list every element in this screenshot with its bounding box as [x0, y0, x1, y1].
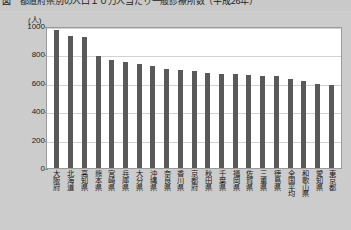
y-axis-tick-label: 400: [1, 107, 45, 116]
x-axis-label-cell: 和歌山県: [298, 170, 312, 228]
bar-cell: [215, 28, 229, 168]
x-axis-label-cell: 香川県: [173, 170, 187, 228]
x-axis-tick-label: 秋田県: [204, 170, 212, 228]
bar: [192, 71, 197, 168]
bar-cell: [270, 28, 284, 168]
x-axis-tick-label: 全国平均: [287, 170, 295, 228]
bar-cell: [119, 28, 133, 168]
x-axis-label-cell: 三重県: [256, 170, 270, 228]
x-axis-label-cell: 大分県: [132, 170, 146, 228]
x-axis-tick-label: 北海道: [66, 170, 74, 228]
bar: [54, 30, 59, 168]
bar-cell: [283, 28, 297, 168]
x-axis-labels: 大阪府北海道高知県熊本県宮崎県兵庫県大分県沖縄県奈良県香川県京都府秋田県千葉県福…: [49, 170, 339, 228]
x-axis-label-cell: 東京都: [325, 170, 339, 228]
bar: [96, 56, 101, 168]
chart-title: 図 都道府県別の人口１０万人当たり一般診療所数（平成26年）: [2, 0, 258, 7]
bar-cell: [64, 28, 78, 168]
x-axis-label-cell: 高知県: [77, 170, 91, 228]
x-axis-label-cell: 大阪府: [49, 170, 63, 228]
bar-cell: [173, 28, 187, 168]
bar: [178, 70, 183, 168]
x-axis-label-cell: 全国平均: [284, 170, 298, 228]
bar: [219, 74, 224, 168]
bar-cell: [91, 28, 105, 168]
x-axis-label-cell: 奈良県: [160, 170, 174, 228]
bar: [164, 69, 169, 168]
x-axis-tick-label: 徳島県: [273, 170, 281, 228]
x-axis-tick-label: 熊本県: [93, 170, 101, 228]
y-axis-tick-label: 800: [1, 50, 45, 59]
y-axis-tick-mark: [44, 169, 48, 170]
bar-cell: [187, 28, 201, 168]
x-axis-label-cell: 北海道: [63, 170, 77, 228]
x-axis-label-cell: 愛知県: [311, 170, 325, 228]
x-axis-label-cell: 千葉県: [215, 170, 229, 228]
x-axis-label-cell: 熊本県: [90, 170, 104, 228]
bar: [150, 66, 155, 168]
x-axis-tick-label: 大阪府: [52, 170, 60, 228]
plot-area: [46, 27, 342, 169]
bar: [137, 64, 142, 168]
bar-cell: [105, 28, 119, 168]
x-axis-tick-label: 東京都: [328, 170, 336, 228]
x-axis-tick-label: 京都府: [190, 170, 198, 228]
x-axis-tick-label: 兵庫県: [121, 170, 129, 228]
bar: [260, 76, 265, 168]
y-axis: 02004006008001000: [0, 27, 45, 169]
chart-card: (人) 02004006008001000 大阪府北海道高知県熊本県宮崎県兵庫県…: [0, 11, 351, 230]
bar-cell: [132, 28, 146, 168]
bar-cell: [324, 28, 338, 168]
bar-cell: [201, 28, 215, 168]
x-axis-tick-label: 香川県: [176, 170, 184, 228]
x-axis-label-cell: 秋田県: [201, 170, 215, 228]
x-axis-tick-label: 三重県: [259, 170, 267, 228]
bar: [301, 81, 306, 168]
x-axis-tick-label: 沖縄県: [148, 170, 156, 228]
bar: [82, 37, 87, 168]
x-axis-label-cell: 兵庫県: [118, 170, 132, 228]
x-axis-label-cell: 福岡県: [229, 170, 243, 228]
y-axis-tick-label: 200: [1, 136, 45, 145]
bar: [274, 76, 279, 168]
bar: [315, 84, 320, 168]
bar-cell: [77, 28, 91, 168]
x-axis-label-cell: 佐賀県: [242, 170, 256, 228]
x-axis-tick-label: 高知県: [79, 170, 87, 228]
bar: [288, 79, 293, 168]
chart-screenshot: 図 都道府県別の人口１０万人当たり一般診療所数（平成26年） (人) 02004…: [0, 0, 351, 230]
y-axis-tick-label: 600: [1, 79, 45, 88]
y-axis-tick-label: 0: [1, 164, 45, 173]
x-axis-label-cell: 京都府: [187, 170, 201, 228]
x-axis-tick-label: 愛知県: [314, 170, 322, 228]
bar-cell: [242, 28, 256, 168]
bar-cell: [146, 28, 160, 168]
x-axis-label-cell: 沖縄県: [146, 170, 160, 228]
y-axis-tick-label: 1000: [1, 22, 45, 31]
x-axis-tick-label: 和歌山県: [300, 170, 308, 228]
chart-title-strip: 図 都道府県別の人口１０万人当たり一般診療所数（平成26年）: [0, 0, 351, 11]
bar-cell: [297, 28, 311, 168]
bar-cell: [160, 28, 174, 168]
bar: [123, 62, 128, 168]
bar: [233, 74, 238, 168]
bar-cell: [256, 28, 270, 168]
bar-cell: [311, 28, 325, 168]
bar: [246, 75, 251, 168]
x-axis-tick-label: 大分県: [135, 170, 143, 228]
x-axis-label-cell: 徳島県: [270, 170, 284, 228]
bar: [68, 36, 73, 168]
bar: [205, 73, 210, 168]
bar-cell: [228, 28, 242, 168]
bar: [109, 60, 114, 168]
x-axis-tick-label: 奈良県: [162, 170, 170, 228]
x-axis-label-cell: 宮崎県: [104, 170, 118, 228]
bar: [329, 85, 334, 168]
x-axis-tick-label: 宮崎県: [107, 170, 115, 228]
bar-series: [50, 28, 338, 168]
x-axis-tick-label: 千葉県: [217, 170, 225, 228]
bar-cell: [50, 28, 64, 168]
x-axis-tick-label: 福岡県: [231, 170, 239, 228]
x-axis-tick-label: 佐賀県: [245, 170, 253, 228]
